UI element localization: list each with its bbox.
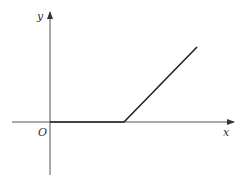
x-axis-label: x	[223, 126, 230, 139]
origin-label: O	[38, 126, 47, 139]
function-graph: y x O	[0, 0, 243, 187]
y-axis-label: y	[36, 10, 44, 23]
function-curve	[50, 47, 197, 122]
